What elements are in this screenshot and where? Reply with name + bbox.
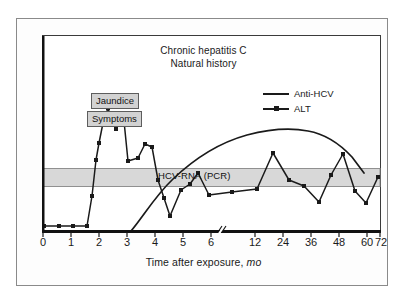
chart-title-line-1: Chronic hepatitis C	[160, 45, 246, 56]
hcv-rna-band-label: HCV-RNA (PCR)	[158, 170, 231, 181]
legend-line-square-icon	[263, 103, 289, 114]
x-tick-label-6: 6	[201, 236, 221, 248]
x-tick-label-36: 36	[301, 236, 321, 248]
x-axis-title-unit: mo	[247, 256, 262, 268]
legend-label-anti-hcv: Anti-HCV	[294, 88, 334, 99]
x-tick-label-0: 0	[33, 236, 53, 248]
x-tick-label-1: 1	[61, 236, 81, 248]
x-tick-label-24: 24	[273, 236, 293, 248]
x-tick-label-3: 3	[117, 236, 137, 248]
figure-container: Chronic hepatitis C Natural history Anti…	[0, 0, 407, 303]
legend-item-alt: ALT	[263, 101, 334, 116]
chart-legend: Anti-HCV ALT	[263, 86, 334, 116]
x-tick-label-5: 5	[173, 236, 193, 248]
x-axis-title-text: Time after exposure,	[146, 256, 244, 268]
legend-item-anti-hcv: Anti-HCV	[263, 86, 334, 101]
x-tick-label-72: 72	[371, 236, 391, 248]
x-axis-title: Time after exposure, mo	[0, 256, 407, 268]
legend-line-icon	[263, 88, 289, 99]
x-tick-label-4: 4	[145, 236, 165, 248]
chart-title: Chronic hepatitis C Natural history	[0, 44, 407, 70]
x-tick-label-48: 48	[329, 236, 349, 248]
x-tick-label-2: 2	[89, 236, 109, 248]
symptoms-annotation-box: Symptoms	[87, 111, 142, 127]
chart-title-line-2: Natural history	[0, 57, 407, 70]
legend-label-alt: ALT	[294, 103, 311, 114]
jaundice-annotation-box: Jaundice	[91, 93, 139, 109]
x-tick-label-12: 12	[245, 236, 265, 248]
